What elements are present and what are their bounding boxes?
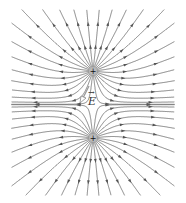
arrowhead-icon <box>123 63 128 67</box>
arrowhead-icon <box>150 110 154 113</box>
arrowhead-icon <box>99 45 103 50</box>
field-line <box>22 10 90 69</box>
field-line <box>12 139 90 186</box>
arrowhead-icon <box>154 49 159 53</box>
field-line <box>93 142 99 196</box>
arrowhead-icon <box>58 142 63 146</box>
arrowhead-icon <box>58 55 63 59</box>
field-line <box>96 10 144 69</box>
arrowhead-icon <box>60 129 64 132</box>
arrowhead-icon <box>89 159 92 163</box>
field-line <box>12 42 89 71</box>
arrowhead-icon <box>87 180 90 184</box>
field-line <box>93 105 174 134</box>
arrowhead-icon <box>77 45 81 50</box>
field-line <box>97 42 174 71</box>
field-line <box>96 124 174 136</box>
arrowhead-icon <box>58 150 63 154</box>
arrowhead-icon <box>123 142 128 146</box>
field-line <box>12 23 90 70</box>
arrowhead-icon <box>77 179 81 184</box>
field-line <box>12 74 90 93</box>
arrowhead-icon <box>31 110 35 113</box>
arrowhead-icon <box>123 150 128 154</box>
arrowhead-icon <box>31 90 35 93</box>
field-line <box>87 10 93 67</box>
arrowhead-icon <box>96 22 99 26</box>
arrowhead-icon <box>121 129 125 132</box>
arrowhead-icon <box>116 179 120 184</box>
arrowhead-icon <box>94 159 97 163</box>
arrowhead-icon <box>27 156 32 160</box>
field-line <box>93 75 174 104</box>
arrowhead-icon <box>150 97 154 100</box>
field-line <box>12 57 89 73</box>
arrowhead-icon <box>114 111 119 115</box>
field-line <box>96 117 174 136</box>
arrowhead-icon <box>77 158 82 163</box>
field-line <box>26 140 90 195</box>
arrowhead-icon <box>58 63 63 67</box>
arrowhead-icon <box>94 44 97 48</box>
field-line <box>12 70 89 79</box>
arrowhead-icon <box>60 77 64 80</box>
arrowhead-icon <box>27 143 32 147</box>
field-line <box>11 73 89 85</box>
arrowhead-icon <box>154 143 159 147</box>
arrowhead-icon <box>83 45 87 50</box>
field-line <box>12 117 90 136</box>
arrowhead-icon <box>104 158 109 163</box>
arrowhead-icon <box>154 156 159 160</box>
field-line <box>97 57 174 73</box>
field-line <box>94 10 112 67</box>
field-line <box>43 10 91 69</box>
field-line <box>12 138 89 167</box>
arrowhead-icon <box>105 45 109 50</box>
arrowhead-icon <box>33 101 37 104</box>
arrowhead-icon <box>89 44 92 48</box>
arrowhead-icon <box>86 22 89 26</box>
arrowhead-icon <box>114 94 119 98</box>
arrowhead-icon <box>106 21 110 26</box>
field-line <box>96 140 160 195</box>
field-line <box>74 10 92 67</box>
svg-text:+: + <box>90 134 97 143</box>
arrowhead-icon <box>67 111 72 115</box>
field-line <box>93 10 99 67</box>
field-line <box>96 10 164 69</box>
field-line <box>97 131 174 140</box>
arrowhead-icon <box>123 55 128 59</box>
arrowhead-icon <box>154 62 159 66</box>
positive-charge-icon: + <box>89 67 97 76</box>
field-line <box>87 142 93 196</box>
arrowhead-icon <box>27 62 32 66</box>
field-line <box>94 142 111 195</box>
field-line <box>11 105 92 134</box>
arrowhead-icon <box>149 105 153 108</box>
field-line <box>97 70 174 79</box>
e-field-label: → E <box>88 95 96 108</box>
positive-charge-icon: + <box>89 134 97 143</box>
arrowhead-icon <box>99 158 103 163</box>
arrowhead-icon <box>105 179 109 184</box>
arrowhead-icon <box>96 180 99 184</box>
arrowhead-icon <box>66 179 70 184</box>
arrowhead-icon <box>151 116 155 119</box>
field-line <box>11 124 89 136</box>
field-line <box>96 73 174 85</box>
field-line <box>96 74 174 93</box>
arrowhead-icon <box>117 22 121 27</box>
arrowhead-icon <box>64 22 68 27</box>
arrowhead-icon <box>76 21 80 26</box>
field-line <box>97 23 175 70</box>
field-line <box>96 141 141 196</box>
arrowhead-icon <box>149 101 153 104</box>
svg-text:+: + <box>90 67 97 76</box>
arrowhead-icon <box>67 94 72 98</box>
field-line <box>12 131 89 140</box>
arrowhead-icon <box>83 158 87 163</box>
arrowhead-icon <box>121 77 125 80</box>
field-line <box>97 138 174 167</box>
field-line <box>12 137 89 153</box>
field-line <box>45 141 90 196</box>
